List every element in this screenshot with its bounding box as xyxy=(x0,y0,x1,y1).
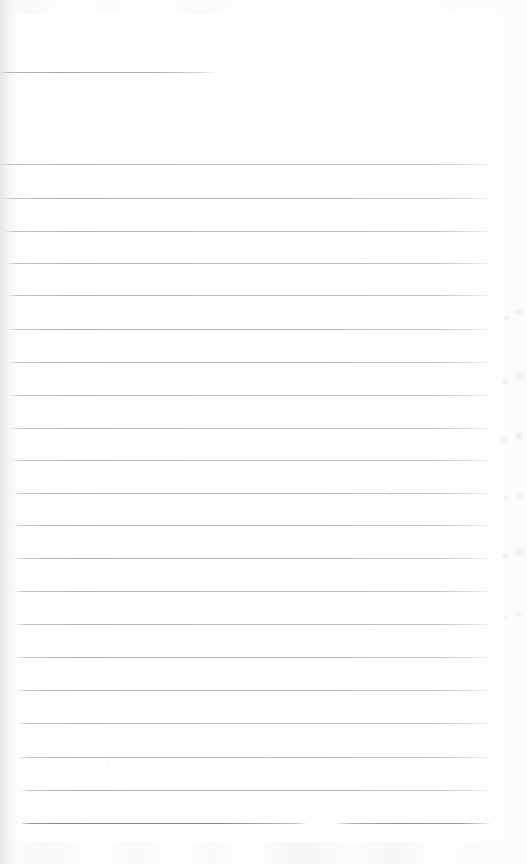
right-margin-smudges xyxy=(493,300,527,860)
scanned-page xyxy=(0,0,527,864)
bottom-scan-noise xyxy=(0,842,527,864)
top-scan-noise xyxy=(0,0,527,14)
writing-area xyxy=(14,150,492,840)
rule-line xyxy=(0,72,216,73)
